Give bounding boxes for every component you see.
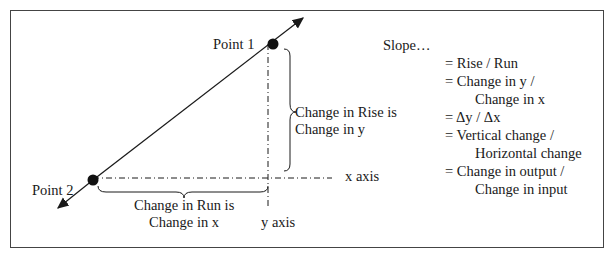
point-1-label: Point 1 (213, 36, 255, 53)
slope-title: Slope… (383, 37, 431, 54)
y-axis-label: y axis (261, 214, 295, 231)
slope-line-2: = Change in y / (445, 73, 535, 90)
point-2-label: Point 2 (32, 182, 74, 199)
slope-line-6: Horizontal change (475, 145, 582, 162)
slope-line-1: = Rise / Run (445, 55, 518, 72)
point-1-dot (268, 39, 279, 50)
x-axis-label: x axis (345, 168, 379, 185)
rise-label-line2: Change in y (295, 121, 365, 138)
slope-line-7: = Change in output / (445, 163, 564, 180)
slope-line-3: Change in x (475, 91, 545, 108)
run-label-line1: Change in Run is (134, 197, 234, 214)
slope-line-5: = Vertical change / (445, 127, 554, 144)
point-2-dot (88, 175, 99, 186)
run-label-line2: Change in x (149, 214, 219, 231)
rise-label-line1: Change in Rise is (295, 104, 397, 121)
slope-line-4: = Δy / Δx (445, 109, 500, 126)
slope-line-8: Change in input (475, 181, 568, 198)
